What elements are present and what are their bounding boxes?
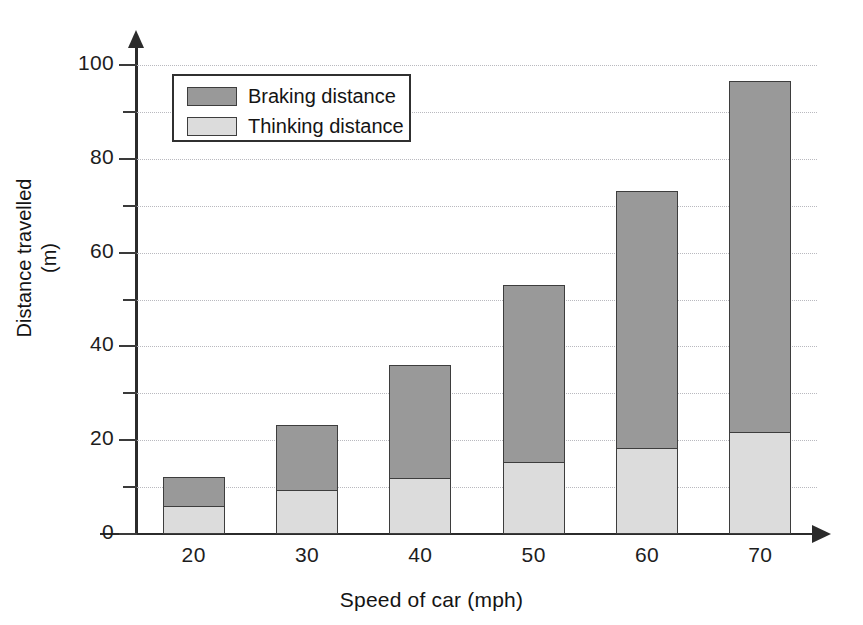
x-axis-tick-label: 60	[587, 543, 707, 567]
legend-label: Braking distance	[248, 85, 396, 108]
legend-item: Thinking distance	[187, 112, 409, 140]
x-axis-tick-label: 70	[700, 543, 820, 567]
x-axis-tick-label: 20	[134, 543, 254, 567]
legend-swatch	[187, 117, 237, 136]
x-axis-tick-label: 30	[247, 543, 367, 567]
y-axis-major-tick	[119, 64, 137, 66]
y-axis-minor-tick	[123, 205, 137, 207]
bar-segment-thinking-distance	[503, 462, 565, 534]
y-axis-minor-tick	[123, 486, 137, 488]
y-axis-title-line2: (m)	[37, 158, 62, 358]
bar-segment-thinking-distance	[729, 432, 791, 534]
y-axis-tick-label: 20	[62, 426, 114, 450]
bar-group	[503, 60, 565, 534]
y-axis-title: Distance travelled (m)	[12, 158, 62, 358]
bar-segment-braking-distance	[729, 81, 791, 434]
x-axis-tick-label: 50	[474, 543, 594, 567]
x-axis-title: Speed of car (mph)	[0, 588, 863, 612]
bar-segment-thinking-distance	[389, 478, 451, 534]
y-axis-major-tick	[119, 158, 137, 160]
legend-item: Braking distance	[187, 82, 409, 110]
y-axis-minor-tick	[123, 392, 137, 394]
y-axis-major-tick	[119, 345, 137, 347]
bar-group	[729, 60, 791, 534]
legend-swatch	[187, 87, 237, 106]
y-axis-major-tick	[119, 533, 137, 535]
y-axis-major-tick	[119, 439, 137, 441]
y-axis-tick-label: 80	[62, 145, 114, 169]
bar-group	[616, 60, 678, 534]
stacked-bar-chart: 020406080100 Distance travelled (m) Spee…	[0, 0, 863, 625]
bar-segment-braking-distance	[616, 191, 678, 449]
y-axis-title-line1: Distance travelled	[12, 158, 37, 358]
bar-segment-braking-distance	[276, 425, 338, 491]
y-axis-tick-label: 100	[62, 51, 114, 75]
bar-segment-braking-distance	[389, 365, 451, 479]
y-axis-minor-tick	[123, 299, 137, 301]
y-axis-tick-label: 40	[62, 332, 114, 356]
chart-legend: Braking distanceThinking distance	[172, 74, 411, 142]
y-axis-tick-label: 0	[62, 520, 114, 544]
bar-segment-thinking-distance	[276, 490, 338, 534]
y-axis-tick-label: 60	[62, 239, 114, 263]
bar-segment-braking-distance	[503, 285, 565, 464]
bar-segment-thinking-distance	[163, 506, 225, 534]
y-axis-major-tick	[119, 252, 137, 254]
x-axis-tick-label: 40	[360, 543, 480, 567]
legend-label: Thinking distance	[248, 115, 404, 138]
y-axis-minor-tick	[123, 111, 137, 113]
y-axis-arrow-icon	[128, 30, 144, 48]
bar-segment-thinking-distance	[616, 448, 678, 534]
bar-segment-braking-distance	[163, 477, 225, 507]
